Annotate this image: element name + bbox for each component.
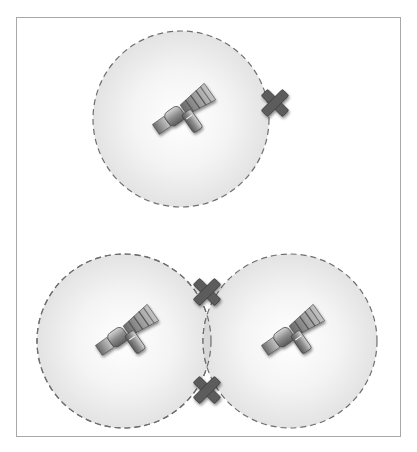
coverage-group-single: [93, 31, 296, 207]
satellite-coverage-diagram: [0, 0, 417, 452]
coverage-group-overlap: [37, 254, 377, 428]
